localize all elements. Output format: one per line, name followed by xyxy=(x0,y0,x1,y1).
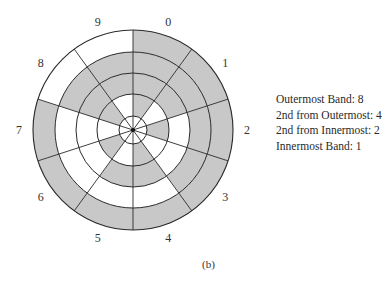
sector-label-2: 2 xyxy=(244,123,250,137)
binary-coded-disk: 0123456789 xyxy=(0,0,270,284)
sector-label-1: 1 xyxy=(222,56,228,70)
center-dot xyxy=(131,128,135,132)
sector-label-7: 7 xyxy=(16,123,22,137)
sector-label-9: 9 xyxy=(95,15,101,29)
sector-7-band-4 xyxy=(55,106,79,154)
sector-2-band-4 xyxy=(187,106,211,154)
sector-label-6: 6 xyxy=(38,190,44,204)
legend-second-from-outermost: 2nd from Outermost: 4 xyxy=(276,108,382,124)
sector-label-0: 0 xyxy=(165,15,171,29)
sector-label-3: 3 xyxy=(222,190,228,204)
sector-label-4: 4 xyxy=(165,231,171,245)
band-weight-legend: Outermost Band: 8 2nd from Outermost: 4 … xyxy=(276,92,382,154)
legend-innermost-band: Innermost Band: 1 xyxy=(276,139,382,155)
legend-outermost-band: Outermost Band: 8 xyxy=(276,92,382,108)
sector-label-8: 8 xyxy=(38,56,44,70)
legend-second-from-innermost: 2nd from Innermost: 2 xyxy=(276,123,382,139)
figure-caption: (b) xyxy=(202,258,215,270)
sector-label-5: 5 xyxy=(95,231,101,245)
